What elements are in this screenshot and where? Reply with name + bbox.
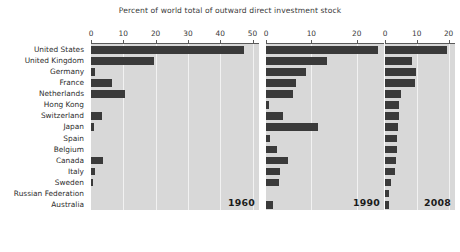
- tick-2008-0: [385, 40, 386, 44]
- bar-1990-canada: [266, 157, 288, 165]
- tick-label-2008-10: 10: [412, 29, 421, 38]
- bar-1990-italy: [266, 168, 280, 176]
- bar-2008-japan: [385, 123, 398, 131]
- axis-line: [385, 43, 455, 44]
- bar-2008-australia: [385, 201, 389, 209]
- chart-title: Percent of world total of outward direct…: [0, 6, 460, 15]
- chart-panel-1990: 1990: [266, 44, 384, 210]
- bar-1960-switzerland: [91, 112, 102, 120]
- tick-1960-0: [91, 40, 92, 44]
- bar-row: [385, 77, 455, 89]
- category-label-japan: Japan: [63, 121, 84, 133]
- bar-1960-italy: [91, 168, 95, 176]
- bar-row: [91, 166, 259, 178]
- bar-2008-canada: [385, 157, 396, 165]
- bar-row: [91, 121, 259, 133]
- bar-1960-united-states: [91, 46, 244, 54]
- axis-line: [266, 43, 384, 44]
- bar-1990-spain: [266, 135, 270, 143]
- bar-1960-netherlands: [91, 90, 125, 98]
- bar-2008-belgium: [385, 146, 397, 154]
- tick-1990-0: [266, 40, 267, 44]
- bar-1990-netherlands: [266, 90, 293, 98]
- chart-panel-2008: 2008: [385, 44, 455, 210]
- x-axis-1960: 01020304050: [91, 22, 259, 44]
- bar-1960-germany: [91, 68, 95, 76]
- tick-1960-20: [156, 40, 157, 44]
- bar-1960-united-kingdom: [91, 57, 154, 65]
- bar-2008-united-states: [385, 46, 447, 54]
- tick-1960-40: [220, 40, 221, 44]
- bar-1990-united-states: [266, 46, 378, 54]
- bar-2008-germany: [385, 68, 416, 76]
- tick-1960-10: [123, 40, 124, 44]
- tick-label-1990-20: 20: [352, 29, 361, 38]
- bar-2008-netherlands: [385, 90, 401, 98]
- x-axis-1990: 01020: [266, 22, 384, 44]
- tick-label-1990-10: 10: [307, 29, 316, 38]
- bar-row: [385, 166, 455, 178]
- tick-label-2008-20: 20: [444, 29, 453, 38]
- bar-1990-france: [266, 79, 296, 87]
- bar-2008-russian-federation: [385, 190, 389, 198]
- bar-1960-japan: [91, 123, 94, 131]
- bar-2008-hong-kong: [385, 101, 399, 109]
- chart-panel-1960: 1960: [91, 44, 259, 210]
- category-axis-labels: United StatesUnited KingdomGermanyFrance…: [0, 44, 88, 210]
- panel-year-label-1990: 1990: [353, 197, 380, 208]
- chart-figure: Percent of world total of outward direct…: [0, 0, 460, 252]
- tick-2008-10: [417, 40, 418, 44]
- tick-1960-50: [253, 40, 254, 44]
- bar-1960-canada: [91, 157, 103, 165]
- bar-row: [266, 77, 384, 89]
- bar-row: [266, 121, 384, 133]
- bar-1960-france: [91, 79, 112, 87]
- bar-2008-switzerland: [385, 112, 399, 120]
- tick-1960-30: [188, 40, 189, 44]
- panel-year-label-2008: 2008: [424, 197, 451, 208]
- bar-1990-australia: [266, 201, 273, 209]
- bar-1990-belgium: [266, 146, 277, 154]
- tick-label-2008-0: 0: [383, 29, 388, 38]
- category-label-italy: Italy: [68, 166, 84, 178]
- bar-row: [266, 166, 384, 178]
- axis-line: [91, 43, 259, 44]
- panel-year-label-1960: 1960: [228, 197, 255, 208]
- tick-label-1960-40: 40: [216, 29, 225, 38]
- bar-2008-france: [385, 79, 415, 87]
- tick-label-1960-10: 10: [119, 29, 128, 38]
- tick-label-1960-0: 0: [89, 29, 94, 38]
- bar-2008-italy: [385, 168, 395, 176]
- category-label-australia: Australia: [51, 199, 84, 211]
- category-label-france: France: [59, 77, 84, 89]
- bar-1990-sweden: [266, 179, 279, 187]
- bar-2008-sweden: [385, 179, 391, 187]
- bar-1960-sweden: [91, 179, 93, 187]
- bar-1990-switzerland: [266, 112, 283, 120]
- bar-2008-united-kingdom: [385, 57, 412, 65]
- tick-1990-10: [311, 40, 312, 44]
- tick-2008-20: [449, 40, 450, 44]
- bar-2008-spain: [385, 135, 397, 143]
- bar-1990-hong-kong: [266, 101, 269, 109]
- bar-1990-germany: [266, 68, 306, 76]
- tick-1990-20: [357, 40, 358, 44]
- bar-1990-united-kingdom: [266, 57, 327, 65]
- bar-row: [385, 121, 455, 133]
- bar-row: [91, 77, 259, 89]
- x-axis-2008: 01020: [385, 22, 455, 44]
- tick-label-1960-30: 30: [183, 29, 192, 38]
- tick-label-1990-0: 0: [264, 29, 269, 38]
- tick-label-1960-20: 20: [151, 29, 160, 38]
- bar-1990-japan: [266, 123, 318, 131]
- tick-label-1960-50: 50: [248, 29, 257, 38]
